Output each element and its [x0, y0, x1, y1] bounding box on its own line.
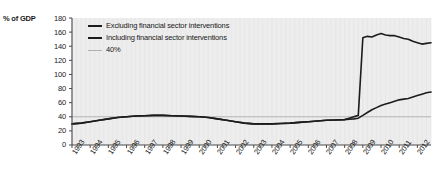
legend-item-reference-40: 40% — [88, 46, 121, 54]
legend-item-including: Including financial sector interventions — [88, 34, 227, 42]
legend-item-excluding: Excluding financial sector interventions — [88, 22, 229, 30]
y-tick-label: 140 — [40, 42, 66, 51]
y-tick-label: 40 — [40, 112, 66, 121]
y-tick-label: 20 — [40, 126, 66, 135]
legend-line-swatch-reference — [88, 50, 102, 51]
y-tick-label: 60 — [40, 98, 66, 107]
legend-line-swatch-excluding — [88, 25, 102, 27]
y-tick-label: 120 — [40, 56, 66, 65]
legend-label-excluding: Excluding financial sector interventions — [106, 22, 229, 30]
y-tick-label: 160 — [40, 28, 66, 37]
y-tick-label: 100 — [40, 70, 66, 79]
y-tick-label: 0 — [40, 140, 66, 149]
gdp-debt-line-chart: % of GDP 180 160 140 120 100 80 60 40 20… — [0, 0, 441, 187]
legend-line-swatch-including — [88, 37, 102, 39]
y-tick-label: 80 — [40, 84, 66, 93]
y-tick-label: 180 — [40, 14, 66, 23]
legend-label-including: Including financial sector interventions — [106, 34, 227, 42]
y-axis-unit-label: % of GDP — [3, 14, 36, 23]
legend-label-reference: 40% — [106, 46, 121, 54]
